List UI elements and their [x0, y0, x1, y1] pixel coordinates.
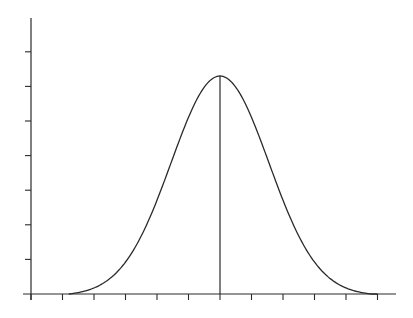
x-axis — [23, 294, 396, 300]
bell-curve-chart — [0, 0, 413, 318]
normal-distribution-curve — [69, 76, 378, 294]
y-axis — [25, 18, 31, 300]
